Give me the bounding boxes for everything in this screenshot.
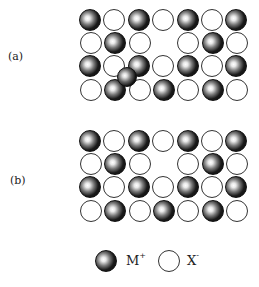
legend: M+ X- — [95, 250, 255, 272]
anion-icon — [103, 176, 125, 198]
cation-icon — [79, 176, 101, 198]
cation-icon — [128, 9, 150, 31]
cation-charge: + — [139, 251, 146, 260]
cation-icon — [177, 130, 199, 152]
cation-icon — [79, 9, 101, 31]
anion-icon — [201, 55, 223, 77]
anion-icon — [129, 200, 151, 222]
anion-legend-label: X- — [187, 253, 199, 268]
cation-icon — [104, 200, 126, 222]
anion-icon — [80, 79, 102, 101]
anion-icon — [80, 200, 102, 222]
anion-icon — [177, 153, 199, 175]
interstitial-cation-icon — [117, 67, 137, 87]
cation-icon — [202, 200, 224, 222]
cation-icon — [153, 200, 175, 222]
anion-icon — [177, 79, 199, 101]
cation-icon — [177, 55, 199, 77]
panel-a-label: (a) — [8, 50, 23, 63]
anion-icon — [226, 200, 248, 222]
cation-icon — [104, 153, 126, 175]
cation-icon — [225, 130, 247, 152]
cation-icon — [128, 176, 150, 198]
anion-icon — [226, 79, 248, 101]
cation-icon — [202, 153, 224, 175]
cation-symbol: M — [126, 253, 139, 268]
cation-icon — [153, 79, 175, 101]
anion-icon — [103, 130, 125, 152]
anion-legend-icon — [158, 250, 180, 272]
cation-icon — [225, 176, 247, 198]
anion-icon — [152, 176, 174, 198]
panel-b-label: (b) — [10, 174, 26, 187]
anion-icon — [152, 55, 174, 77]
cation-legend-icon — [95, 250, 117, 272]
anion-icon — [80, 153, 102, 175]
anion-symbol: X — [187, 253, 196, 268]
anion-icon — [226, 153, 248, 175]
anion-icon — [80, 32, 102, 54]
anion-icon — [201, 130, 223, 152]
cation-icon — [128, 130, 150, 152]
anion-icon — [129, 153, 151, 175]
cation-icon — [177, 9, 199, 31]
anion-icon — [129, 32, 151, 54]
anion-icon — [226, 32, 248, 54]
cation-icon — [79, 130, 101, 152]
anion-icon — [177, 32, 199, 54]
cation-icon — [79, 55, 101, 77]
anion-charge: - — [196, 251, 199, 260]
cation-legend-label: M+ — [126, 253, 146, 268]
anion-icon — [177, 200, 199, 222]
anion-icon — [103, 9, 125, 31]
cation-icon — [202, 79, 224, 101]
cation-icon — [104, 32, 126, 54]
cation-icon — [202, 32, 224, 54]
cation-icon — [225, 55, 247, 77]
anion-icon — [152, 130, 174, 152]
anion-icon — [152, 9, 174, 31]
cation-icon — [177, 176, 199, 198]
anion-icon — [201, 9, 223, 31]
anion-icon — [201, 176, 223, 198]
cation-icon — [225, 9, 247, 31]
